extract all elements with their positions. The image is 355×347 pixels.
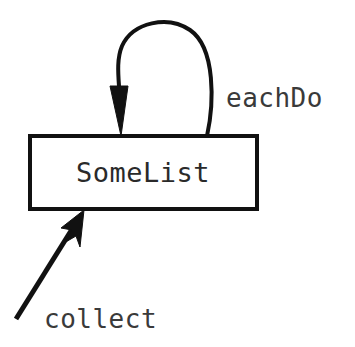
edge-self-loop[interactable]: eachDo [110,22,323,136]
edge-self-loop-curve [118,22,211,136]
node-somelist[interactable]: SomeList [30,136,257,209]
edge-self-loop-label: eachDo [226,83,323,113]
diagram-canvas: SomeList eachDo collect [0,0,355,347]
edge-collect-arrowhead [61,210,84,247]
node-somelist-label: SomeList [76,157,210,188]
edge-collect[interactable]: collect [16,210,157,334]
edge-self-loop-arrowhead [110,86,128,136]
diagram-svg: SomeList eachDo collect [0,0,355,347]
edge-collect-label: collect [44,304,157,334]
